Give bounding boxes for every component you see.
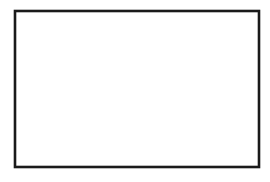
- grain-structure-svg: [0, 0, 270, 182]
- figure-frame: [15, 11, 259, 167]
- grain-structure-figure: [0, 0, 270, 182]
